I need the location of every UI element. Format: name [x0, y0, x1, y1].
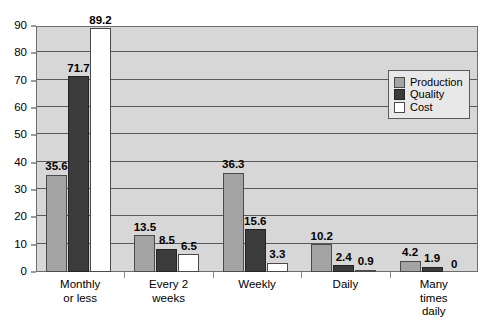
bar-chart: 9080706050403020100 35.671.789.213.58.56…: [0, 0, 494, 323]
bar-value-label: 89.2: [89, 15, 111, 27]
quality-swatch-icon: [394, 89, 405, 100]
y-tick-label: 30: [14, 184, 27, 196]
bar-group: 4.21.90: [390, 26, 478, 272]
bar-value-label: 4.2: [402, 247, 418, 259]
bar-value-label: 1.9: [424, 253, 440, 265]
x-tick-mark: [124, 272, 125, 278]
bar-slot: 4.2: [400, 26, 421, 272]
bar-slot: 71.7: [68, 26, 89, 272]
production-swatch-icon: [394, 77, 405, 88]
legend: Production Quality Cost: [388, 70, 470, 119]
x-tick-mark: [213, 272, 214, 278]
y-tick-label: 80: [14, 48, 27, 60]
y-tick-label: 70: [14, 75, 27, 87]
bar-quality: [245, 229, 266, 272]
bar-value-label: 15.6: [244, 216, 266, 228]
bar-slot: 35.6: [46, 26, 67, 272]
bar-cost: [90, 28, 111, 272]
y-axis: 9080706050403020100: [0, 0, 36, 323]
y-tick-label: 0: [21, 266, 27, 278]
bar-slot: 10.2: [311, 26, 332, 272]
x-category-label: Weekly: [213, 278, 301, 292]
bar-slot: 36.3: [223, 26, 244, 272]
bar-value-label: 3.3: [269, 249, 285, 261]
bar-slot: 1.9: [422, 26, 443, 272]
bar-cost: [355, 270, 376, 272]
y-tick-label: 10: [14, 239, 27, 251]
bar-production: [311, 244, 332, 272]
bar-production: [223, 173, 244, 272]
y-tick-label: 40: [14, 157, 27, 169]
bar-group: 35.671.789.2: [36, 26, 124, 272]
y-tick-label: 90: [14, 20, 27, 32]
x-category-label: Many times daily: [390, 278, 478, 319]
cost-swatch-icon: [394, 102, 405, 113]
legend-label-quality: Quality: [410, 89, 444, 100]
bar-value-label: 8.5: [159, 235, 175, 247]
bar-value-label: 35.6: [45, 161, 67, 173]
bar-value-label: 10.2: [310, 231, 332, 243]
bar-value-label: 2.4: [336, 252, 352, 264]
bar-group: 36.315.63.3: [213, 26, 301, 272]
bar-value-label: 0.9: [358, 256, 374, 268]
legend-item-production: Production: [394, 77, 464, 88]
bar-slot: 89.2: [90, 26, 111, 272]
x-tick-mark: [301, 272, 302, 278]
legend-item-cost: Cost: [394, 102, 464, 113]
legend-label-cost: Cost: [410, 102, 433, 113]
bar-value-label: 36.3: [222, 159, 244, 171]
bar-quality: [156, 249, 177, 272]
legend-item-quality: Quality: [394, 89, 464, 100]
legend-label-production: Production: [410, 77, 463, 88]
bar-quality: [422, 267, 443, 272]
bar-quality: [68, 76, 89, 272]
bar-value-label: 0: [451, 259, 457, 271]
bar-slot: 0.9: [355, 26, 376, 272]
x-category-label: Daily: [301, 278, 389, 292]
bar-production: [400, 261, 421, 272]
y-tick-label: 20: [14, 212, 27, 224]
y-tick-label: 50: [14, 130, 27, 142]
bar-value-label: 71.7: [67, 63, 89, 75]
bar-group: 13.58.56.5: [124, 26, 212, 272]
bar-production: [46, 175, 67, 272]
bar-slot: 2.4: [333, 26, 354, 272]
x-category-label: Every 2 weeks: [124, 278, 212, 305]
bar-groups-layer: 35.671.789.213.58.56.536.315.63.310.22.4…: [36, 26, 478, 272]
x-tick-mark: [390, 272, 391, 278]
y-tick-label: 60: [14, 102, 27, 114]
bar-slot: 13.5: [134, 26, 155, 272]
bar-production: [134, 235, 155, 272]
bar-slot: 3.3: [267, 26, 288, 272]
bar-group: 10.22.40.9: [301, 26, 389, 272]
bar-cost: [178, 254, 199, 272]
bar-cost: [267, 263, 288, 272]
x-category-label: Monthly or less: [36, 278, 124, 305]
bar-slot: 6.5: [178, 26, 199, 272]
bar-value-label: 6.5: [181, 241, 197, 253]
bar-slot: 8.5: [156, 26, 177, 272]
bar-slot: 15.6: [245, 26, 266, 272]
bar-value-label: 13.5: [134, 222, 156, 234]
bar-slot: 0: [444, 26, 465, 272]
bar-quality: [333, 265, 354, 272]
